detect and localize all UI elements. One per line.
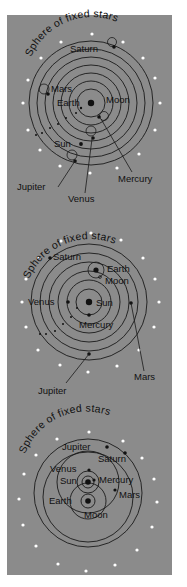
mercury-label: Mercury <box>118 173 153 184</box>
jupiter-dot <box>105 445 109 449</box>
cosmology-figure: Sphere of fixed stars <box>0 0 187 587</box>
earth-dot <box>93 267 98 272</box>
earth-dot <box>88 100 94 106</box>
mars-leader <box>131 303 144 371</box>
sun-dot <box>79 142 83 146</box>
saturn-dot <box>48 256 52 260</box>
mars-label: Mars <box>134 371 155 382</box>
earth-label: Earth <box>107 263 130 274</box>
mercury-dot <box>92 478 95 481</box>
sun-label: Sun <box>96 297 113 308</box>
mercury-leader <box>101 119 132 172</box>
geocentric-diagram: Sphere of fixed stars <box>17 7 162 204</box>
saturn-label: Saturn <box>70 43 98 54</box>
saturn-label: Saturn <box>53 251 81 262</box>
venus-label: Venus <box>28 296 55 307</box>
jupiter-label: Jupiter <box>17 181 46 192</box>
venus-dot <box>87 468 90 471</box>
sun-label: Sun <box>60 475 77 486</box>
sun-dot <box>86 299 92 305</box>
mercury-dot <box>87 313 91 317</box>
mercury-label: Mercury <box>79 319 114 330</box>
venus-label: Venus <box>68 193 95 204</box>
venus-epicycle <box>86 126 96 136</box>
jupiter-label: Jupiter <box>38 385 67 396</box>
orbit-markers <box>39 307 78 335</box>
sun-label: Sun <box>54 138 71 149</box>
moon-label: Moon <box>106 94 130 105</box>
moon-dot <box>80 107 82 109</box>
venus-dot <box>66 300 70 304</box>
jupiter-leader <box>66 354 89 383</box>
sun-dot <box>85 479 91 485</box>
heliocentric-diagram: Sphere of fixed stars Saturn Earth <box>20 229 161 396</box>
jupiter-label: Jupiter <box>62 441 91 452</box>
saturn-label: Saturn <box>98 453 126 464</box>
saturn-epicycle <box>108 38 117 47</box>
moon-label: Moon <box>105 275 129 286</box>
mars-label: Mars <box>119 489 140 500</box>
saturn-dot <box>112 45 116 49</box>
earth-dot <box>85 498 91 504</box>
venus-label: Venus <box>50 463 77 474</box>
geoheliocentric-diagram: Sphere of fixed stars Jupiter Saturn Ven… <box>16 401 159 572</box>
earth-label: Earth <box>49 495 72 506</box>
moon-label: Moon <box>84 509 108 520</box>
mercury-label: Mercury <box>99 474 134 485</box>
mars-dot <box>113 488 116 491</box>
mercury-dot <box>97 115 101 119</box>
mars-dot <box>46 92 50 96</box>
mars-label: Mars <box>51 83 72 94</box>
venus-leader <box>85 139 92 193</box>
earth-label: Earth <box>57 97 80 108</box>
